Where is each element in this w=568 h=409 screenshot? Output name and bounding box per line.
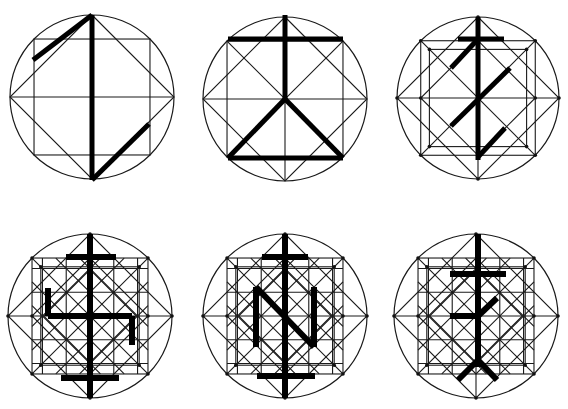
grid-node — [532, 372, 536, 376]
grid-node — [146, 314, 150, 318]
grid-node — [476, 177, 480, 181]
panel-5 — [201, 232, 369, 400]
grid-node — [146, 256, 150, 260]
bound-rune-z-glyph — [451, 17, 510, 160]
glyph-stroke — [285, 99, 343, 158]
panel-2 — [203, 15, 367, 181]
grid-node — [416, 256, 420, 260]
grid-node — [419, 39, 423, 43]
rune-diagram-figure — [0, 0, 568, 409]
glyph-stroke — [458, 360, 478, 380]
grid-node — [170, 314, 174, 318]
grid-node — [419, 153, 423, 157]
grid-node — [416, 372, 420, 376]
grid-node — [341, 256, 345, 260]
grid-node — [533, 96, 537, 100]
grid-node — [392, 314, 396, 318]
glyph-stroke — [228, 99, 285, 158]
grid-node — [341, 372, 345, 376]
grid-node — [416, 314, 420, 318]
grid-node — [533, 39, 537, 43]
glyph-stroke — [33, 15, 92, 60]
grid-node — [30, 372, 34, 376]
panel-4 — [6, 232, 174, 400]
glyph-stroke — [92, 124, 149, 180]
grid-node — [6, 314, 10, 318]
grid-node — [532, 256, 536, 260]
sun-wheel-rune-glyph — [48, 234, 132, 398]
grid-node — [525, 145, 529, 149]
grid-node — [146, 372, 150, 376]
glyph-stroke — [478, 128, 505, 157]
grid-node — [525, 48, 529, 52]
grid-node — [341, 314, 345, 318]
grid-node — [428, 145, 432, 149]
panel-3 — [395, 15, 561, 181]
panel-1 — [10, 15, 174, 180]
panel-6 — [392, 232, 560, 400]
grid-node — [225, 256, 229, 260]
grid-node — [30, 256, 34, 260]
grid-node — [532, 314, 536, 318]
glyph-stroke — [451, 39, 478, 68]
grid-node — [419, 96, 423, 100]
grid-node — [533, 153, 537, 157]
grid-node — [428, 48, 432, 52]
grid-node — [30, 314, 34, 318]
grid-node — [225, 372, 229, 376]
grid-node — [557, 96, 561, 100]
grid-node — [201, 314, 205, 318]
grid-node — [556, 314, 560, 318]
grid-node — [395, 96, 399, 100]
grid-node — [225, 314, 229, 318]
grid-node — [365, 314, 369, 318]
grid-node — [474, 396, 478, 400]
